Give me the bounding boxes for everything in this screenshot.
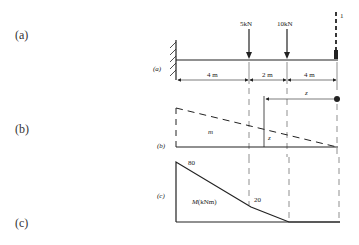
- moment-area-label: M(kNm): [191, 198, 217, 206]
- unit-load-label: 1: [340, 12, 344, 20]
- bending-moment-diagram: [176, 162, 340, 222]
- moment-value-20: 20: [254, 196, 262, 204]
- unit-load-point-icon: [334, 96, 340, 102]
- load-label-10kn: 10kN: [277, 20, 293, 28]
- panel-c-label: (c): [157, 192, 165, 200]
- panel-a: (a) 5kN 10kN 1: [153, 12, 344, 90]
- moment-value-80: 80: [188, 159, 196, 167]
- load-arrow-5kn-icon: [246, 29, 252, 59]
- panel-b: (b) z m z: [157, 88, 340, 157]
- influence-line: [176, 108, 337, 147]
- panel-a-label: (a): [153, 65, 162, 73]
- panel-b-label: (b): [157, 142, 166, 150]
- dimension-label-3: 4 m: [304, 71, 315, 79]
- panel-c: (c) 80 20 M(kNm): [157, 157, 340, 222]
- z-distance-label: z: [304, 89, 308, 97]
- load-arrow-10kn-icon: [284, 29, 290, 59]
- fixed-wall-icon: [170, 40, 176, 80]
- beam-diagram: (a) 5kN 10kN 1: [0, 0, 359, 245]
- unit-load-dashed-arrow-icon: [334, 12, 338, 59]
- dimension-label-2: 2 m: [262, 71, 273, 79]
- load-label-5kn: 5kN: [240, 20, 252, 28]
- influence-area-label: m: [208, 128, 213, 136]
- ordinate-z-label: z: [267, 134, 271, 142]
- dimension-label-1: 4 m: [207, 71, 218, 79]
- moment-unit: (kNm): [198, 198, 217, 206]
